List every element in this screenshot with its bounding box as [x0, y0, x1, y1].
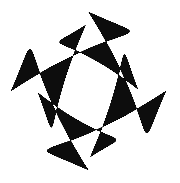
glyph-canvas: O — [0, 0, 180, 183]
background-field — [0, 0, 180, 183]
letter-o-glyph: O — [0, 0, 180, 183]
